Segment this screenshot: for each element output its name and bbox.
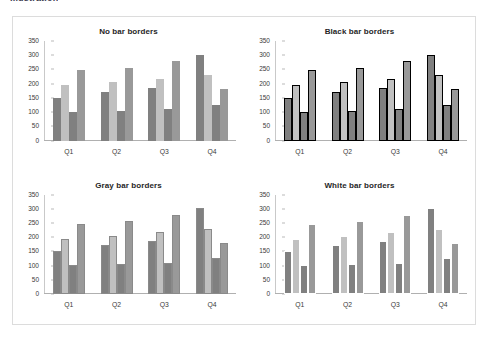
bar [156,232,164,294]
bar-group [419,195,467,295]
bar-group [188,195,236,295]
document-header: Illustration [10,0,58,2]
bar [148,88,156,141]
bar-group [45,195,93,295]
bar [196,55,204,141]
bar [109,82,117,140]
y-axis: 050100150200250300350 [21,41,43,141]
bar [220,243,228,294]
bar [148,241,156,294]
x-axis-tick-label: Q4 [419,145,467,159]
y-axis-tick-label: 350 [259,38,270,45]
y-axis-tick-label: 300 [28,205,39,212]
bar [427,55,435,141]
bar [403,215,411,294]
bar [427,208,435,294]
y-axis: 050100150200250300350 [252,195,274,295]
x-axis-tick-label: Q3 [141,145,189,159]
bar [156,79,164,141]
y-axis-tick-label: 200 [259,80,270,87]
bar [101,245,109,294]
y-axis: 050100150200250300350 [252,41,274,141]
y-axis-tick-label: 100 [259,262,270,269]
bar [212,105,220,141]
bar-group [419,41,467,141]
panel-title: No bar borders [13,27,244,36]
y-axis-tick-label: 300 [28,52,39,59]
bar [379,88,387,141]
bar [356,68,364,141]
bar [204,75,212,140]
y-axis-tick-label: 250 [28,220,39,227]
bar [69,112,77,141]
bar-group [372,195,420,295]
panel-title: White bar borders [244,181,475,190]
x-axis-tick-label: Q4 [419,298,467,312]
plot-area [45,195,236,295]
chart-panel-black: Black bar borders050100150200250300350Q1… [244,17,475,171]
y-axis-tick-label: 150 [28,248,39,255]
bar [220,89,228,140]
figure-frame: No bar borders050100150200250300350Q1Q2Q… [12,16,476,325]
bar [308,224,316,295]
bar-group [141,195,189,295]
bar-group [372,41,420,141]
bar [61,239,69,294]
y-axis-tick-label: 0 [35,291,39,298]
bar [164,263,172,294]
bar [77,224,85,295]
plot-area [276,195,467,295]
bar [387,232,395,294]
x-axis-tick-label: Q3 [372,298,420,312]
bar [53,98,61,141]
bar-group [276,195,324,295]
y-axis-tick-label: 150 [259,95,270,102]
x-axis-tick-label: Q1 [45,298,93,312]
bar [69,265,77,294]
bar [204,229,212,294]
y-axis-tick-label: 0 [266,291,270,298]
y-axis-tick-label: 350 [259,191,270,198]
x-axis-labels: Q1Q2Q3Q4 [276,298,467,312]
bar-group [93,195,141,295]
x-axis-tick-label: Q3 [372,145,420,159]
bar [348,264,356,294]
panel-grid: No bar borders050100150200250300350Q1Q2Q… [13,17,475,324]
y-axis: 050100150200250300350 [21,195,43,295]
x-axis-tick-label: Q4 [188,298,236,312]
plot-wrap: 050100150200250300350Q1Q2Q3Q4 [244,41,469,167]
bar-group [276,41,324,141]
bar [292,85,300,140]
y-axis-tick-label: 150 [28,95,39,102]
x-axis-tick-label: Q1 [45,145,93,159]
bar [451,243,459,294]
bar [125,221,133,294]
x-axis-tick-label: Q4 [188,145,236,159]
x-axis-tick-label: Q3 [141,298,189,312]
y-axis-tick-label: 50 [263,277,270,284]
y-axis-tick-label: 100 [28,109,39,116]
bar [356,221,364,294]
plot-area [45,41,236,141]
x-axis-tick-label: Q2 [93,145,141,159]
y-axis-tick-label: 150 [259,248,270,255]
y-axis-tick-label: 250 [28,66,39,73]
bar [340,236,348,294]
bar [387,79,395,141]
bar [395,109,403,140]
bar [443,105,451,141]
x-axis-tick-label: Q1 [276,145,324,159]
panel-title: Black bar borders [244,27,475,36]
bar [196,208,204,294]
bar [435,75,443,140]
bar [403,61,411,140]
plot-area [276,41,467,141]
bar [117,264,125,294]
bar [379,241,387,294]
bar [284,251,292,294]
bar [172,61,180,140]
bar [117,111,125,141]
bar [125,68,133,141]
y-axis-tick-label: 350 [28,191,39,198]
bar [101,92,109,141]
